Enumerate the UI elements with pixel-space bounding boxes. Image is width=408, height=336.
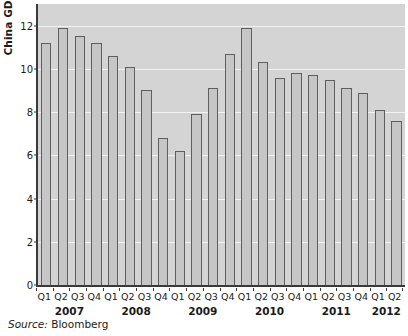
bar (358, 93, 368, 285)
bar (91, 43, 101, 285)
x-axis-quarter-label: Q1 (371, 291, 385, 302)
x-axis-quarter-label: Q1 (171, 291, 185, 302)
x-axis-quarter-label: Q3 (271, 291, 285, 302)
x-axis-year-label: 2011 (322, 305, 351, 317)
chart-figure: China GDP 024681012 Q1Q2Q3Q4Q1Q2Q3Q4Q1Q2… (0, 0, 408, 336)
bar (75, 36, 85, 285)
x-axis-year-label: 2008 (121, 305, 150, 317)
y-axis-tick-label: 8 (27, 107, 33, 118)
y-axis-tick-mark (34, 241, 38, 242)
bar (258, 62, 268, 285)
y-axis-tick-mark (34, 68, 38, 69)
y-axis-title: China GDP (2, 0, 22, 64)
y-axis-tick-label: 6 (27, 150, 33, 161)
x-axis-quarter-label: Q3 (71, 291, 85, 302)
x-axis-quarter-label: Q4 (88, 291, 102, 302)
x-axis-quarter-label: Q4 (355, 291, 369, 302)
y-axis-tick-mark (34, 155, 38, 156)
gridline (38, 26, 405, 27)
bar (325, 80, 335, 285)
bar (341, 88, 351, 285)
bar (375, 110, 385, 285)
bar (191, 114, 201, 285)
bar (41, 43, 51, 285)
x-axis-quarter-label: Q2 (321, 291, 335, 302)
bar (308, 75, 318, 285)
y-axis-tick-mark (34, 25, 38, 26)
source-value: Bloomberg (51, 318, 108, 330)
y-axis-tick-mark (34, 112, 38, 113)
bar (208, 88, 218, 285)
x-axis-quarter-label: Q3 (138, 291, 152, 302)
x-axis-quarter-label: Q2 (54, 291, 68, 302)
bar (158, 138, 168, 285)
bar (391, 121, 401, 285)
x-axis-quarter-label: Q2 (388, 291, 402, 302)
x-axis-quarter-label: Q1 (238, 291, 252, 302)
x-axis-tick-mark (402, 288, 403, 291)
y-axis-tick-label: 12 (20, 20, 33, 31)
x-axis-quarter-label: Q4 (288, 291, 302, 302)
bar (141, 90, 151, 285)
y-axis-tick-label: 10 (20, 63, 33, 74)
x-axis-year-label: 2012 (372, 305, 401, 317)
bar (58, 28, 68, 285)
source-note: Source: Bloomberg (8, 318, 108, 330)
x-axis-quarter-label: Q3 (204, 291, 218, 302)
bar (275, 78, 285, 286)
x-axis-quarter-label: Q1 (104, 291, 118, 302)
x-axis-quarter-label: Q2 (188, 291, 202, 302)
y-axis-tick-mark (34, 285, 38, 286)
bar (108, 56, 118, 285)
bar (241, 28, 251, 285)
bar (125, 67, 135, 285)
x-axis-quarter-label: Q1 (304, 291, 318, 302)
y-axis-tick-label: 0 (27, 280, 33, 291)
x-axis-quarter-label: Q2 (254, 291, 268, 302)
x-axis-quarter-label: Q4 (154, 291, 168, 302)
x-axis-quarter-label: Q1 (38, 291, 52, 302)
x-axis-quarter-label: Q4 (221, 291, 235, 302)
y-axis-tick-label: 2 (27, 236, 33, 247)
bar (291, 73, 301, 285)
x-axis-year-label: 2007 (55, 305, 84, 317)
y-axis-tick-mark (34, 198, 38, 199)
plot-area: 024681012 (36, 4, 405, 287)
x-axis-year-label: 2010 (255, 305, 284, 317)
bar (225, 54, 235, 285)
bar (175, 151, 185, 285)
x-axis-quarter-label: Q3 (338, 291, 352, 302)
x-axis-year-label: 2009 (188, 305, 217, 317)
plot-inner: 024681012 (38, 4, 405, 285)
x-axis-quarter-label: Q2 (121, 291, 135, 302)
y-axis-tick-label: 4 (27, 193, 33, 204)
source-label: Source: (8, 318, 48, 330)
